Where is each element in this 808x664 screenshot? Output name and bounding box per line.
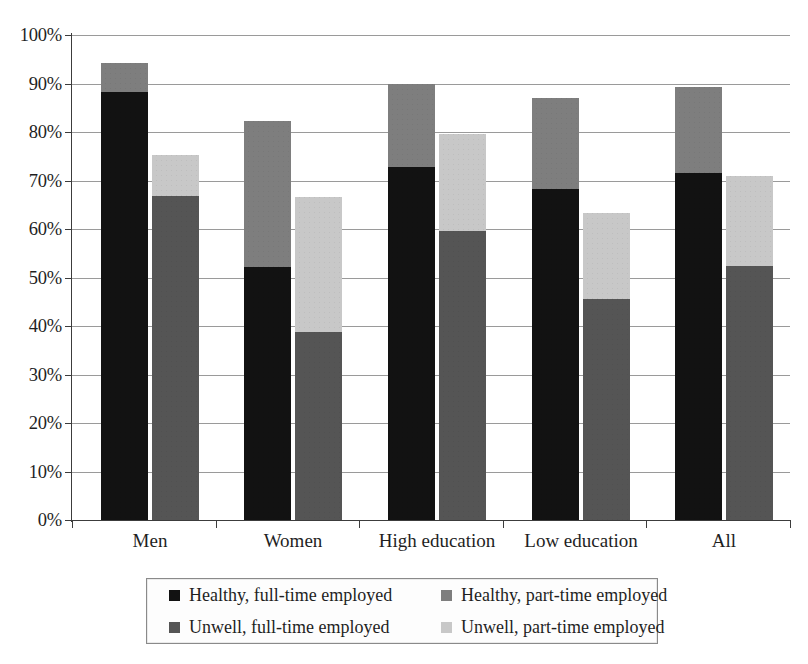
bar-segment-healthy-part-time-employed	[388, 84, 435, 167]
bar-all-healthy	[675, 35, 722, 520]
bar-women-healthy	[244, 35, 291, 520]
x-axis-tick	[359, 520, 360, 528]
x-axis-category-label: Men	[133, 531, 168, 550]
x-axis-tick	[790, 520, 791, 528]
y-axis-tick-label: 40%	[4, 317, 62, 336]
x-axis-category-label: High education	[379, 531, 496, 550]
y-axis-tick-label: 60%	[4, 220, 62, 239]
y-axis-labels: 0%10%20%30%40%50%60%70%80%90%100%	[0, 0, 62, 664]
y-axis-tick	[65, 472, 72, 473]
y-axis-tick	[65, 326, 72, 327]
legend-item-label: Unwell, full-time employed	[189, 618, 389, 636]
legend-item: Healthy, full-time employed	[169, 586, 441, 604]
y-axis-tick	[65, 520, 72, 521]
x-axis-category-label: Low education	[524, 531, 637, 550]
y-axis-tick-label: 50%	[4, 269, 62, 288]
y-axis-tick-label: 0%	[4, 511, 62, 530]
legend-swatch-icon	[441, 590, 452, 601]
bar-segment-unwell-full-time-employed	[439, 231, 486, 520]
y-axis-tick	[65, 84, 72, 85]
bar-segment-healthy-full-time-employed	[532, 189, 579, 520]
bar-segment-unwell-full-time-employed	[152, 196, 199, 520]
bar-segment-unwell-full-time-employed	[295, 332, 342, 520]
x-axis-category-label: Women	[264, 531, 323, 550]
bar-segment-unwell-part-time-employed	[152, 155, 199, 196]
legend-item-label: Healthy, part-time employed	[461, 586, 667, 604]
bar-high-education-unwell	[439, 35, 486, 520]
gridline	[72, 520, 790, 521]
bar-segment-unwell-part-time-employed	[583, 213, 630, 300]
bar-low-education-healthy	[532, 35, 579, 520]
bar-low-education-unwell	[583, 35, 630, 520]
bar-all-unwell	[726, 35, 773, 520]
x-axis-tick	[216, 520, 217, 528]
bar-men-unwell	[152, 35, 199, 520]
bar-high-education-healthy	[388, 35, 435, 520]
y-axis-tick-label: 30%	[4, 366, 62, 385]
y-axis-tick	[65, 375, 72, 376]
y-axis-tick	[65, 132, 72, 133]
y-axis-tick-label: 90%	[4, 75, 62, 94]
bar-segment-healthy-part-time-employed	[244, 121, 291, 267]
bar-segment-unwell-part-time-employed	[439, 134, 486, 231]
y-axis-tick-label: 100%	[4, 26, 62, 45]
bar-segment-unwell-part-time-employed	[726, 176, 773, 266]
bar-segment-healthy-full-time-employed	[244, 267, 291, 520]
bar-women-unwell	[295, 35, 342, 520]
x-axis-tick	[503, 520, 504, 528]
y-axis-tick	[65, 181, 72, 182]
x-axis-category-label: All	[712, 531, 736, 550]
y-axis-tick-label: 70%	[4, 172, 62, 191]
bar-segment-unwell-full-time-employed	[726, 266, 773, 520]
legend-item-label: Unwell, part-time employed	[461, 618, 664, 636]
y-axis-tick	[65, 229, 72, 230]
bar-segment-unwell-part-time-employed	[295, 197, 342, 332]
legend-item: Unwell, part-time employed	[441, 618, 681, 636]
y-axis-tick	[65, 35, 72, 36]
bar-segment-healthy-part-time-employed	[532, 98, 579, 189]
bar-segment-healthy-part-time-employed	[675, 87, 722, 173]
legend-item-label: Healthy, full-time employed	[189, 586, 392, 604]
y-axis-tick	[65, 278, 72, 279]
legend-swatch-icon	[169, 622, 180, 633]
legend-swatch-icon	[169, 590, 180, 601]
y-axis-tick-label: 20%	[4, 414, 62, 433]
bar-segment-healthy-part-time-employed	[101, 63, 148, 93]
bar-segment-healthy-full-time-employed	[388, 167, 435, 520]
chart-legend: Healthy, full-time employedHealthy, part…	[146, 578, 658, 644]
legend-item: Healthy, part-time employed	[441, 586, 681, 604]
legend-swatch-icon	[441, 622, 452, 633]
bar-segment-healthy-full-time-employed	[675, 173, 722, 520]
stacked-bar-chart: 0%10%20%30%40%50%60%70%80%90%100% MenWom…	[0, 0, 808, 664]
y-axis-tick-label: 80%	[4, 123, 62, 142]
bar-segment-unwell-full-time-employed	[583, 299, 630, 520]
x-axis-tick	[72, 520, 73, 528]
legend-item: Unwell, full-time employed	[169, 618, 441, 636]
y-axis-tick	[65, 423, 72, 424]
bar-segment-healthy-full-time-employed	[101, 92, 148, 520]
x-axis-tick	[646, 520, 647, 528]
plot-area	[72, 35, 790, 520]
y-axis-tick-label: 10%	[4, 463, 62, 482]
bar-men-healthy	[101, 35, 148, 520]
